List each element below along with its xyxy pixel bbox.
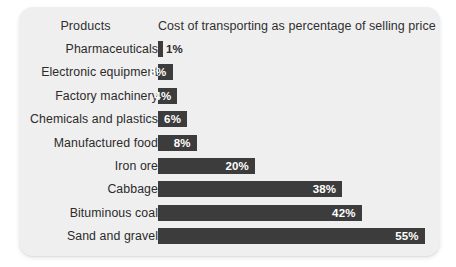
bar: 4% [158, 88, 177, 104]
bar-track: 55% [158, 228, 440, 244]
chart-row: Electronic equipment3% [19, 63, 440, 86]
chart-row: Manufactured food8% [19, 134, 440, 157]
bar-value-label: 6% [164, 111, 181, 127]
chart-row: Chemicals and plastics6% [19, 110, 440, 133]
bar-track: 42% [158, 205, 440, 221]
bar-value-label: 20% [225, 158, 249, 174]
bar-value-label: 38% [313, 181, 337, 197]
bar: 55% [158, 228, 425, 244]
bar-category-label: Chemicals and plastics [0, 112, 158, 127]
bar-track: 8% [158, 135, 440, 151]
chart-header: Products Cost of transporting as percent… [19, 19, 440, 41]
chart-row: Bituminous coal42% [19, 204, 440, 227]
chart-row: Pharmaceuticals1% [19, 40, 440, 63]
column-header-value: Cost of transporting as percentage of se… [158, 19, 436, 33]
bar-category-label: Manufactured food [0, 136, 158, 151]
bar-value-label: 1% [166, 41, 183, 57]
bar: 6% [158, 111, 187, 127]
bar-category-label: Iron ore [0, 159, 158, 174]
bar: 42% [158, 205, 362, 221]
bar-value-label: 42% [332, 205, 356, 221]
bar-value-label: 3% [150, 64, 167, 80]
chart-row: Cabbage38% [19, 180, 440, 203]
chart-row: Iron ore20% [19, 157, 440, 180]
bar-track: 20% [158, 158, 440, 174]
bar-category-label: Pharmaceuticals [0, 42, 158, 57]
chart-card: Products Cost of transporting as percent… [19, 7, 440, 256]
bar-category-label: Factory machinery [0, 89, 158, 104]
bar: 38% [158, 181, 342, 197]
bar-category-label: Cabbage [0, 182, 158, 197]
bar-track: 1% [158, 41, 440, 57]
bar [158, 41, 163, 57]
bar-value-label: 55% [395, 228, 419, 244]
bar-track: 38% [158, 181, 440, 197]
column-header-products: Products [19, 19, 152, 33]
bar-rows: Pharmaceuticals1%Electronic equipment3%F… [19, 40, 440, 251]
bar: 8% [158, 135, 197, 151]
bar-category-label: Electronic equipment [0, 65, 158, 80]
bar-track: 6% [158, 111, 440, 127]
bar-track: 4% [158, 88, 440, 104]
bar-category-label: Bituminous coal [0, 206, 158, 221]
bar-category-label: Sand and gravel [0, 229, 158, 244]
chart-row: Sand and gravel55% [19, 227, 440, 250]
bar-value-label: 4% [154, 88, 171, 104]
bar-value-label: 8% [174, 135, 191, 151]
bar-track: 3% [158, 64, 440, 80]
bar: 3% [158, 64, 173, 80]
bar: 20% [158, 158, 255, 174]
chart-row: Factory machinery4% [19, 87, 440, 110]
